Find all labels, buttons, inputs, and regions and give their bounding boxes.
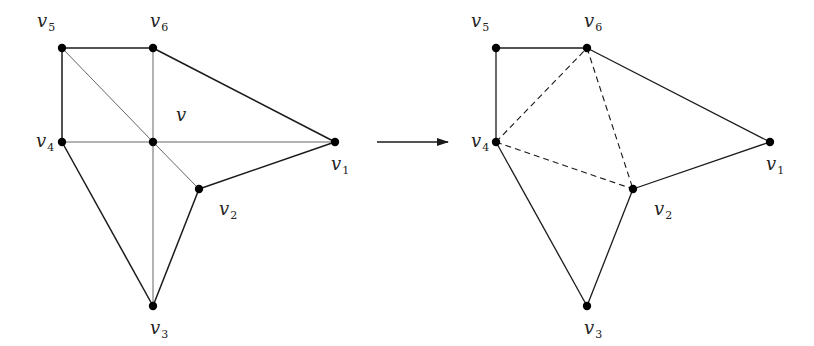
label-v3: v3 [150, 317, 168, 341]
vertex-v2 [629, 185, 637, 193]
label-v5: v5 [37, 10, 55, 34]
label-v4: v4 [36, 130, 54, 154]
vertex-v5 [492, 44, 500, 52]
left-graph: v1v2v3v4v5v6v [36, 10, 349, 341]
left-outer-edges [62, 48, 335, 306]
label-v2: v2 [219, 198, 237, 222]
label-v6: v6 [150, 10, 168, 34]
diagram-canvas: v1v2v3v4v5v6v v1v2v3v4v5v6 [0, 0, 814, 346]
dashed-edge-v6-v2 [587, 48, 633, 189]
right-vertex-labels: v1v2v3v4v5v6 [471, 10, 784, 341]
right-graph: v1v2v3v4v5v6 [471, 10, 784, 341]
label-v5: v5 [471, 10, 489, 34]
outer-edge-v1-v2 [199, 142, 335, 189]
vertex-v [149, 138, 157, 146]
vertex-v3 [149, 302, 157, 310]
vertex-v2 [195, 185, 203, 193]
solid-edge-v3-v4 [496, 142, 587, 306]
vertex-v3 [583, 302, 591, 310]
spoke-edge-v-v5 [62, 48, 153, 142]
right-dashed-edges [496, 48, 633, 189]
label-v3: v3 [584, 317, 602, 341]
outer-edge-v2-v3 [153, 189, 199, 306]
outer-edge-v6-v1 [153, 48, 335, 142]
solid-edge-v6-v1 [587, 48, 770, 142]
left-vertices [58, 44, 339, 310]
vertex-v4 [58, 138, 66, 146]
left-vertex-labels: v1v2v3v4v5v6v [36, 10, 349, 341]
label-v: v [176, 104, 186, 125]
spoke-edge-v-v2 [153, 142, 199, 189]
label-v6: v6 [584, 10, 602, 34]
right-vertices [492, 44, 774, 310]
vertex-v5 [58, 44, 66, 52]
label-v2: v2 [654, 198, 672, 222]
vertex-v6 [149, 44, 157, 52]
label-v1: v1 [331, 153, 349, 177]
dashed-edge-v4-v6 [496, 48, 587, 142]
outer-edge-v3-v4 [62, 142, 153, 306]
dashed-edge-v4-v2 [496, 142, 633, 189]
solid-edge-v2-v3 [587, 189, 633, 306]
vertex-v1 [766, 138, 774, 146]
vertex-v6 [583, 44, 591, 52]
solid-edge-v1-v2 [633, 142, 770, 189]
label-v1: v1 [766, 153, 784, 177]
right-solid-edges [496, 48, 770, 306]
left-spoke-edges [62, 48, 335, 306]
vertex-v4 [492, 138, 500, 146]
vertex-v1 [331, 138, 339, 146]
label-v4: v4 [471, 130, 489, 154]
